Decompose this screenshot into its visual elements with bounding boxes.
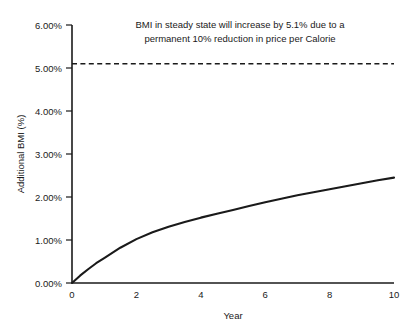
annotation-line-1: BMI in steady state will increase by 5.1…	[135, 19, 345, 30]
annotation-line-2: permanent 10% reduction in price per Cal…	[144, 33, 335, 44]
y-tick-label-4: 4.00%	[35, 106, 62, 117]
y-axis-title: Additional BMI (%)	[15, 115, 26, 194]
y-tick-label-2: 2.00%	[35, 192, 62, 203]
x-tick-label-2: 2	[134, 289, 139, 300]
y-tick-label-5: 5.00%	[35, 63, 62, 74]
y-tick-label-6: 6.00%	[35, 20, 62, 31]
x-tick-label-4: 4	[198, 289, 203, 300]
chart-page: BMI in steady state will increase by 5.1…	[0, 0, 414, 332]
x-tick-label-6: 6	[263, 289, 268, 300]
x-axis-title: Year	[223, 310, 242, 321]
x-tick-label-10: 10	[389, 289, 400, 300]
y-tick-label-3: 3.00%	[35, 149, 62, 160]
x-tick-label-0: 0	[69, 289, 74, 300]
y-tick-label-1: 1.00%	[35, 235, 62, 246]
x-tick-label-8: 8	[327, 289, 332, 300]
bmi-line-chart: BMI in steady state will increase by 5.1…	[0, 0, 414, 332]
bmi-series-line	[72, 178, 394, 283]
y-tick-label-0: 0.00%	[35, 278, 62, 289]
